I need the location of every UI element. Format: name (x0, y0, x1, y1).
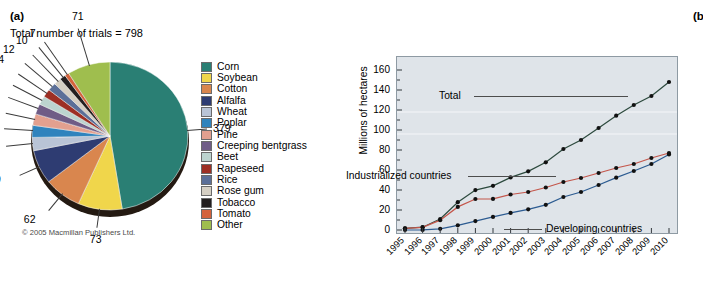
legend-item-poplar[interactable]: Poplar (201, 118, 307, 129)
data-point-total (597, 126, 601, 130)
x-tick-label: 1999 (455, 236, 476, 257)
legend-item-soybean[interactable]: Soybean (201, 72, 307, 83)
data-point-industrialized-countries (632, 162, 636, 166)
legend-label: Soybean (217, 73, 258, 83)
legend-label: Alfalfa (217, 96, 246, 106)
legend-item-beet[interactable]: Beet (201, 152, 307, 163)
x-tick-label: 2002 (508, 236, 529, 257)
x-tick-label: 2010 (649, 236, 670, 257)
x-tick-label: 2000 (473, 236, 494, 257)
x-tick-label: 2006 (579, 236, 600, 257)
y-tick-label: 100 (364, 125, 390, 135)
data-point-industrialized-countries (438, 218, 442, 222)
line-series-industrialized-countries (405, 153, 669, 228)
data-point-industrialized-countries (597, 171, 601, 175)
panel-a-label: (a) (10, 10, 24, 22)
data-point-developing-countries (667, 152, 671, 156)
pie-leader-line (4, 129, 33, 132)
legend-label: Other (217, 220, 243, 230)
legend-label: Tobacco (217, 198, 255, 208)
data-point-industrialized-countries (473, 197, 477, 201)
data-point-total (632, 103, 636, 107)
data-point-developing-countries (491, 215, 495, 219)
legend-label: Beet (217, 152, 238, 162)
y-tick-label: 80 (364, 145, 390, 155)
data-point-developing-countries (579, 190, 583, 194)
legend-label: Poplar (217, 118, 247, 128)
panel-b-label: (b) (693, 10, 703, 22)
x-tick-label: 1995 (385, 236, 406, 257)
legend-swatch-icon (201, 209, 212, 219)
legend-swatch-icon (201, 164, 212, 174)
legend-label: Creeping bentgrass (217, 141, 307, 151)
data-point-total (667, 80, 671, 84)
data-point-industrialized-countries (649, 156, 653, 160)
legend-item-rice[interactable]: Rice (201, 174, 307, 185)
data-point-industrialized-countries (456, 205, 460, 209)
data-point-total (544, 160, 548, 164)
legend-item-pine[interactable]: Pine (201, 129, 307, 140)
legend-item-creeping-bentgrass[interactable]: Creeping bentgrass (201, 140, 307, 151)
legend-swatch-icon (201, 141, 212, 151)
legend-item-other[interactable]: Other (201, 220, 307, 231)
line-series-developing-countries (405, 155, 669, 231)
data-point-industrialized-countries (561, 180, 565, 184)
legend-swatch-icon (201, 96, 212, 106)
pie-value-tomato: 7 (30, 28, 36, 39)
data-point-total (561, 147, 565, 151)
data-point-industrialized-countries (526, 190, 530, 194)
data-point-developing-countries (544, 203, 548, 207)
legend-swatch-icon (201, 107, 212, 117)
pie-value-cotton: 62 (24, 214, 36, 225)
annotation-industrialized-countries: Industrialized countries (346, 171, 451, 181)
legend-label: Rice (217, 175, 238, 185)
legend-item-rapeseed[interactable]: Rapeseed (201, 163, 307, 174)
legend-swatch-icon (201, 84, 212, 94)
legend-item-tomato[interactable]: Tomato (201, 208, 307, 219)
x-tick-label: 2007 (596, 236, 617, 257)
data-point-total (473, 188, 477, 192)
copyright-notice-a: © 2005 Macmillan Publishers Ltd. (22, 228, 135, 237)
legend-item-tobacco[interactable]: Tobacco (201, 197, 307, 208)
x-tick-label: 2004 (543, 236, 564, 257)
annotation-leader-line (474, 96, 628, 97)
legend-label: Corn (217, 62, 239, 72)
legend-item-rose-gum[interactable]: Rose gum (201, 186, 307, 197)
y-tick-label: 0 (364, 225, 390, 235)
data-point-industrialized-countries (544, 185, 548, 189)
legend-item-corn[interactable]: Corn (201, 61, 307, 72)
pie-legend: CornSoybeanCottonAlfalfaWheatPoplarPineC… (201, 61, 307, 231)
data-point-developing-countries (526, 207, 530, 211)
data-point-industrialized-countries (614, 166, 618, 170)
y-tick-label: 140 (364, 85, 390, 95)
pie-value-alfalfa: 59 (0, 174, 1, 185)
legend-item-alfalfa[interactable]: Alfalfa (201, 95, 307, 106)
legend-swatch-icon (201, 130, 212, 140)
y-tick-label: 40 (364, 185, 390, 195)
data-point-developing-countries (597, 183, 601, 187)
data-point-developing-countries (473, 219, 477, 223)
legend-swatch-icon (201, 73, 212, 83)
pie-chart (30, 58, 190, 218)
pie-value-tobacco: 10 (16, 35, 28, 46)
legend-swatch-icon (201, 198, 212, 208)
annotation-developing-countries: Developing countries (546, 224, 642, 234)
legend-swatch-icon (201, 220, 212, 230)
panel-a: (a) Total number of trials = 798 3797362… (0, 0, 345, 287)
legend-label: Wheat (217, 107, 247, 117)
legend-item-cotton[interactable]: Cotton (201, 84, 307, 95)
data-point-developing-countries (632, 169, 636, 173)
y-tick-label: 120 (364, 105, 390, 115)
annotation-leader-line (468, 176, 556, 177)
figure-container: (a) Total number of trials = 798 3797362… (0, 0, 703, 287)
pie-value-rose-gum: 12 (3, 44, 15, 55)
data-point-developing-countries (509, 211, 513, 215)
legend-swatch-icon (201, 152, 212, 162)
legend-item-wheat[interactable]: Wheat (201, 106, 307, 117)
legend-label: Rapeseed (217, 164, 264, 174)
legend-swatch-icon (201, 175, 212, 185)
legend-label: Cotton (217, 84, 247, 94)
data-point-total (614, 114, 618, 118)
pie-slice-corn (110, 62, 188, 209)
line-chart-plot-area (396, 56, 678, 234)
